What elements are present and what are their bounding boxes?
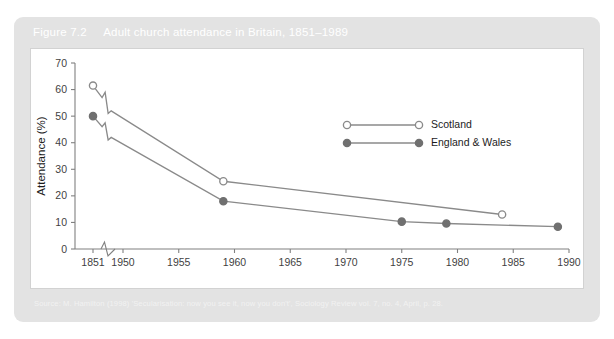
line-chart: 010203040506070Attendance (%)18511950195… — [31, 49, 583, 288]
series-line — [93, 116, 558, 227]
y-axis-tick-label: 30 — [55, 163, 67, 175]
legend-item: Scotland — [343, 118, 472, 130]
chart-plot-area: 010203040506070Attendance (%)18511950195… — [30, 48, 584, 289]
data-point-marker — [220, 178, 227, 185]
legend-label: Scotland — [431, 118, 472, 130]
y-axis-tick-label: 60 — [55, 83, 67, 95]
y-axis-tick-label: 10 — [55, 216, 67, 228]
x-axis-tick-label: 1960 — [223, 256, 247, 268]
data-point-marker — [89, 82, 96, 89]
x-axis-tick-label: 1980 — [446, 256, 470, 268]
x-axis-tick-label: 1965 — [279, 256, 303, 268]
figure-panel: Figure 7.2 Adult church attendance in Br… — [14, 17, 600, 322]
data-point-marker — [220, 198, 227, 205]
y-axis-title: Attendance (%) — [35, 116, 47, 195]
x-axis-tick-label: 1975 — [390, 256, 414, 268]
x-axis-tick-label: 1851 — [81, 256, 105, 268]
x-axis-tick-label: 1950 — [111, 256, 135, 268]
x-axis-tick-label: 1990 — [557, 256, 581, 268]
x-axis-tick-label: 1970 — [334, 256, 358, 268]
x-axis-tick-label: 1955 — [167, 256, 191, 268]
figure-title: Adult church attendance in Britain, 1851… — [103, 26, 348, 38]
figure-caption: Figure 7.2 Adult church attendance in Br… — [33, 26, 573, 44]
y-axis-tick-label: 40 — [55, 136, 67, 148]
data-point-marker — [443, 220, 450, 227]
x-axis-tick-label: 1985 — [502, 256, 526, 268]
data-point-marker — [89, 113, 96, 120]
source-note: Source: M. Hamilton (1998) 'Secularisati… — [34, 299, 582, 308]
y-axis-tick-label: 20 — [55, 189, 67, 201]
y-axis-tick-label: 0 — [61, 243, 67, 255]
y-axis-tick-label: 50 — [55, 110, 67, 122]
data-point-marker — [554, 223, 561, 230]
data-point-marker — [499, 211, 506, 218]
y-axis-tick-label: 70 — [55, 57, 67, 69]
series-line — [93, 86, 502, 215]
figure-number: Figure 7.2 — [33, 26, 87, 38]
series-1 — [89, 82, 505, 218]
legend-item: England & Wales — [343, 136, 511, 148]
legend-label: England & Wales — [431, 136, 511, 148]
data-point-marker — [398, 218, 405, 225]
